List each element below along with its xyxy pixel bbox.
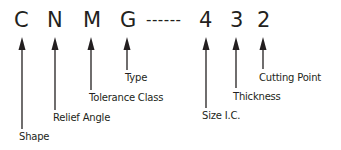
label-cutting-point: Cutting Point	[259, 72, 321, 83]
label-shape: Shape	[19, 131, 49, 142]
arrow-up-icon-thickness	[233, 37, 240, 88]
arrow-up-icon-shape	[19, 37, 26, 129]
arrow-up-icon-type	[124, 37, 131, 70]
label-relief-angle: Relief Angle	[53, 112, 110, 123]
arrow-up-icon-tolerance-class	[88, 37, 95, 90]
arrow-up-icon-relief-angle	[52, 37, 59, 110]
label-type: Type	[125, 72, 147, 83]
label-size-ic: Size I.C.	[202, 110, 240, 121]
label-tolerance-class: Tolerance Class	[89, 92, 163, 103]
arrow-up-icon-size-ic	[203, 37, 210, 108]
arrow-up-icon-cutting-point	[260, 37, 267, 69]
label-thickness: Thickness	[233, 91, 281, 102]
